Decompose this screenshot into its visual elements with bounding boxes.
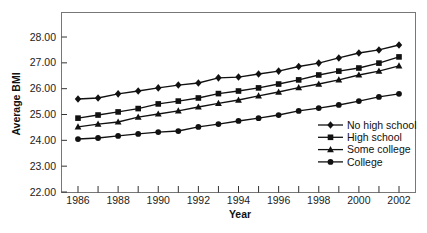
circle-marker — [95, 135, 101, 141]
diamond-marker — [135, 87, 141, 95]
y-tick-label: 23.00 — [30, 160, 56, 172]
diamond-marker — [215, 74, 221, 82]
diamond-marker — [195, 79, 201, 87]
square-marker — [75, 115, 81, 121]
diamond-marker — [275, 67, 281, 75]
square-marker — [236, 88, 242, 94]
circle-marker — [336, 102, 342, 108]
circle-marker — [256, 115, 262, 121]
x-tick-label: 2000 — [347, 194, 371, 206]
circle-icon — [328, 159, 334, 165]
diamond-marker — [396, 41, 402, 49]
legend-label: College — [347, 156, 383, 168]
legend-label: No high school — [347, 119, 416, 131]
diamond-marker — [316, 59, 322, 67]
legend-item: High school — [318, 131, 402, 143]
square-marker — [216, 91, 222, 97]
diamond-marker — [175, 81, 181, 89]
legend: No high schoolHigh schoolSome collegeCol… — [318, 119, 416, 168]
square-marker — [115, 109, 121, 115]
square-marker — [196, 95, 202, 101]
circle-marker — [175, 128, 181, 134]
circle-marker — [216, 121, 222, 127]
diamond-icon — [327, 121, 333, 129]
y-axis-title: Average BMI — [10, 72, 22, 135]
circle-marker — [376, 94, 382, 100]
x-tick-label: 1992 — [187, 194, 211, 206]
x-tick-label: 2002 — [387, 194, 411, 206]
triangle-marker — [396, 62, 403, 68]
diamond-marker — [115, 90, 121, 98]
diamond-marker — [75, 95, 81, 103]
x-tick-label: 1996 — [267, 194, 291, 206]
y-tick-label: 24.00 — [30, 134, 56, 146]
circle-marker — [276, 112, 282, 118]
diamond-marker — [356, 49, 362, 57]
square-marker — [176, 98, 182, 104]
x-tick-label: 1998 — [307, 194, 331, 206]
x-tick-label: 1990 — [147, 194, 171, 206]
square-marker — [155, 101, 161, 107]
circle-marker — [115, 133, 121, 139]
legend-label: Some college — [347, 143, 411, 155]
square-marker — [376, 60, 382, 66]
square-marker — [336, 68, 342, 74]
legend-item: Some college — [318, 143, 411, 155]
x-tick-label: 1986 — [66, 194, 90, 206]
square-marker — [95, 112, 101, 118]
y-tick-label: 28.00 — [30, 31, 56, 43]
square-marker — [356, 65, 362, 71]
x-tick-label: 1988 — [106, 194, 130, 206]
legend-label: High school — [347, 131, 402, 143]
series-line — [78, 57, 399, 118]
legend-item: College — [318, 156, 383, 168]
circle-marker — [155, 129, 161, 135]
diamond-marker — [295, 63, 301, 71]
y-tick-label: 22.00 — [30, 186, 56, 198]
diamond-marker — [95, 94, 101, 102]
square-marker — [316, 72, 322, 78]
x-axis-title: Year — [229, 208, 251, 220]
diamond-marker — [376, 46, 382, 54]
square-icon — [328, 135, 334, 141]
legend-item: No high school — [318, 119, 416, 131]
circle-marker — [75, 136, 81, 142]
diamond-marker — [336, 54, 342, 62]
circle-marker — [296, 108, 302, 114]
square-marker — [296, 77, 302, 83]
circle-marker — [356, 98, 362, 104]
circle-marker — [396, 91, 402, 97]
diamond-marker — [155, 84, 161, 92]
diamond-marker — [255, 70, 261, 78]
bmi-line-chart: 22.0023.0024.0025.0026.0027.0028.00 1986… — [0, 0, 427, 233]
diamond-marker — [235, 73, 241, 81]
circle-marker — [316, 105, 322, 111]
y-tick-label: 27.00 — [30, 56, 56, 68]
y-tick-label: 26.00 — [30, 82, 56, 94]
x-tick-label: 1994 — [227, 194, 251, 206]
series-high-school — [75, 54, 402, 121]
x-axis: 198619881990199219941996199820002002 — [66, 186, 411, 206]
square-marker — [135, 106, 141, 112]
circle-marker — [195, 124, 201, 130]
square-marker — [396, 54, 402, 60]
y-tick-label: 25.00 — [30, 108, 56, 120]
circle-marker — [236, 118, 242, 124]
circle-marker — [135, 131, 141, 137]
square-marker — [276, 81, 282, 87]
square-marker — [256, 85, 262, 91]
